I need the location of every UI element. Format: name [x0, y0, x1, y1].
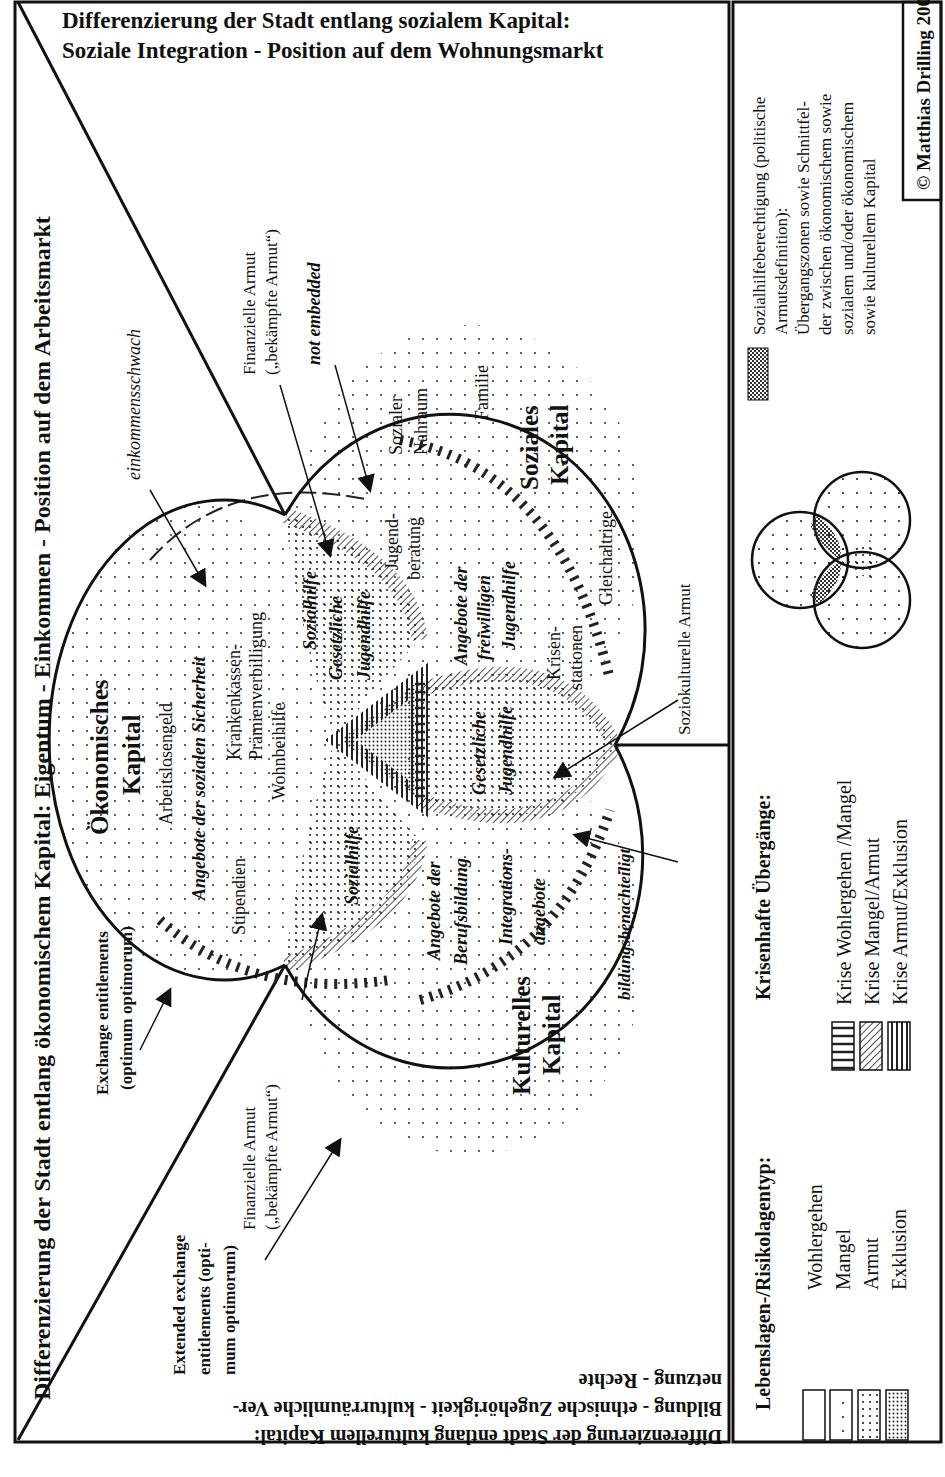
item-jugendberatung-2: beratung [404, 517, 424, 580]
item-sozialer-nahraum-2: Nahraum [411, 388, 431, 455]
legend-krisen: Krisenhafte Übergänge: Krise Wohlergehen… [752, 779, 911, 1070]
item-krisenstationen-2: stationen [566, 625, 586, 690]
annotation-extended-1: Extended exchange [170, 1234, 189, 1375]
legend-sozialhilfe: Sozialhilfeberechtigung (politische Armu… [748, 94, 879, 400]
svg-text:Ökonomisches: Ökonomisches [86, 679, 113, 835]
diagram-canvas: Differenzierung der Stadt entlang sozial… [0, 0, 945, 1477]
annotation-einkommensschwach: einkommensschwach [124, 329, 144, 480]
annotation-bildungsbenachteiligt: bildungsbenachteiligt [615, 848, 634, 1000]
svg-text:der zwischen ökonomischem sowi: der zwischen ökonomischem sowie [816, 94, 835, 335]
intersection-eco-soc-jugendhilfe: Jugendhilfe [354, 591, 374, 681]
item-krisenstationen-1: Krisen- [544, 626, 564, 680]
intersection-eco-cul-sozialhilfe: Sozialhilfe [342, 826, 362, 905]
item-berufsbildung-2: Berufsbildung [451, 858, 471, 966]
item-angebote-freiwilligen-2: freiwilligen [474, 575, 494, 660]
annotation-soziokulturelle-armut: Soziokulturelle Armut [675, 583, 694, 735]
annotation-extended-3: mum optimorum) [220, 1245, 239, 1375]
svg-text:netzung - Rechte: netzung - Rechte [579, 1369, 722, 1392]
legend-exklusion: Exklusion [888, 1209, 910, 1290]
swatch-mangel [830, 1390, 852, 1440]
svg-text:Soziales: Soziales [516, 405, 543, 490]
legend-lebenslagen-title: Lebenslagen-/Risikolagentyp: [752, 1157, 775, 1410]
svg-text:Übergangszonen sowie Schnittfe: Übergangszonen sowie Schnittfel- [794, 101, 813, 335]
legend-krise-2: Krise Mangel/Armut [861, 837, 884, 1005]
item-angebote-freiwilligen-3: Jugendhilfe [499, 561, 519, 651]
annotation-fin-armut-top-1: Finanzielle Armut [240, 251, 259, 375]
annotation-fin-armut-top-2: („bekämpfte Armut“) [262, 229, 281, 375]
swatch-exklusion [886, 1390, 908, 1440]
legend-wohlergehen: Wohlergehen [804, 1184, 827, 1290]
legend-mangel: Mangel [832, 1228, 855, 1290]
item-integrationsangebote-1: Integrations- [496, 848, 516, 946]
intersection-soc-cul-gesetzliche: Gesetzliche [469, 711, 489, 795]
legend-lebenslagen: Lebenslagen-/Risikolagentyp: Wohlergehen… [752, 1157, 910, 1440]
svg-text:Sozialhilfeberechtigung (polit: Sozialhilfeberechtigung (politische [750, 97, 769, 335]
svg-text:sozialem und/oder ökonomischem: sozialem und/oder ökonomischem [838, 102, 857, 335]
axis-cultural-label: Differenzierung der Stadt entlang kultur… [233, 1369, 722, 1448]
svg-text:Differenzierung der Stadt entl: Differenzierung der Stadt entlang kultur… [254, 1425, 722, 1448]
svg-text:Bildung - ethnische Zugehörigk: Bildung - ethnische Zugehörigkeit - kult… [233, 1397, 722, 1420]
copyright-text: © Matthias Drilling 2004 [913, 0, 934, 190]
annotation-exchange-1: Exchange entitlements [93, 931, 112, 1095]
item-familie: Familie [472, 365, 492, 420]
svg-text:Kapital: Kapital [538, 994, 565, 1075]
svg-text:Kulturelles: Kulturelles [508, 976, 535, 1095]
item-arbeitslosengeld: Arbeitslosengeld [156, 703, 176, 825]
swatch-krise-wohlergehen-mangel [832, 1022, 854, 1070]
item-angebote-freiwilligen-1: Angebote der [451, 566, 471, 666]
legend-krise-1: Krise Wohlergehen /Mangel [833, 779, 856, 1005]
legend-krisen-title: Krisenhafte Übergänge: [752, 794, 775, 1000]
item-berufsbildung-1: Angebote der [424, 861, 444, 961]
legend-mini-venn [752, 472, 910, 648]
swatch-krise-mangel-armut [860, 1022, 882, 1070]
intersection-soc-cul-jugendhilfe: Jugendhilfe [496, 706, 516, 796]
item-angebote-sozialen-sicherheit: Angebote der sozialen Sicherheit [189, 655, 209, 901]
svg-text:Armutsdefinition):: Armutsdefinition): [772, 208, 791, 335]
item-krankenkassen-2: Prämienverbilligung [246, 612, 266, 760]
swatch-sozialhilfe [748, 348, 768, 400]
item-stipendien: Stipendien [229, 858, 249, 935]
swatch-krise-armut-exklusion [888, 1022, 910, 1070]
annotation-extended-2: entitlements (opti- [195, 1242, 214, 1375]
axis-economic-label: Differenzierung der Stadt entlang ökonom… [29, 216, 55, 1400]
annotation-fin-armut-bottom-2: („bekämpfte Armut“) [262, 1084, 281, 1230]
legend-armut: Armut [860, 1237, 882, 1290]
annotation-not-embedded: not embedded [304, 262, 324, 365]
svg-text:Kapital: Kapital [118, 714, 145, 795]
title-line2: Soziale Integration - Position auf dem W… [62, 38, 604, 63]
item-wohnbeihilfe: Wohnbeihilfe [269, 702, 289, 800]
item-jugendberatung-1: Jugend- [382, 513, 402, 570]
svg-text:sowie kulturellem Kapital: sowie kulturellem Kapital [860, 158, 879, 335]
intersection-eco-soc-sozialhilfe: Sozialhilfe [300, 571, 320, 650]
item-gleichaltrige: Gleichaltrige [596, 511, 616, 605]
legend-krise-3: Krise Armut/Exklusion [889, 819, 911, 1005]
title-line1: Differenzierung der Stadt entlang sozial… [62, 8, 570, 33]
intersection-eco-soc-gesetzliche: Gesetzliche [326, 596, 346, 680]
svg-text:Kapital: Kapital [546, 404, 573, 485]
annotation-fin-armut-bottom-1: Finanzielle Armut [240, 1106, 259, 1230]
swatch-wohlergehen [803, 1390, 825, 1440]
item-integrationsangebote-2: angebote [529, 878, 549, 945]
annotation-exchange-2: (optimum optimorum) [117, 926, 136, 1090]
item-krankenkassen-1: Krankenkassen- [224, 644, 244, 760]
item-sozialer-nahraum-1: Sozialer [386, 396, 406, 455]
swatch-armut [858, 1390, 880, 1440]
